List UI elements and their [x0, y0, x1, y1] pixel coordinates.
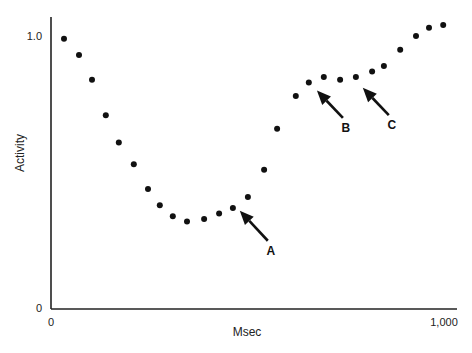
data-point [230, 205, 236, 211]
y-tick-label-top: 1.0 [27, 30, 42, 42]
annotation-arrow-a: A [240, 211, 276, 258]
data-point [170, 213, 176, 219]
data-point [116, 140, 122, 146]
annotation-arrow-c: C [363, 88, 397, 132]
data-point [76, 52, 82, 58]
data-point [337, 77, 343, 83]
activity-scatter-chart: 1.0 0 0 1,000 Msec Activity ABC [0, 0, 472, 353]
x-tick-label-start: 0 [48, 316, 54, 328]
data-point [426, 25, 432, 31]
annotation-arrow-b: B [317, 91, 351, 135]
data-point [369, 69, 375, 75]
data-point [145, 186, 151, 192]
data-point [103, 112, 109, 118]
annotation-label-c: C [387, 118, 396, 132]
data-point [413, 33, 419, 39]
data-point [157, 202, 163, 208]
x-tick-label-end: 1,000 [430, 316, 458, 328]
data-point [397, 47, 403, 53]
y-tick-label-bottom: 0 [36, 302, 42, 314]
data-point [321, 74, 327, 80]
data-point [201, 216, 207, 222]
data-point [381, 63, 387, 69]
data-point [131, 161, 137, 167]
data-point [61, 36, 67, 42]
data-point [293, 93, 299, 99]
annotation-label-a: A [266, 244, 275, 258]
data-point [306, 79, 312, 85]
data-point [440, 22, 446, 28]
data-point [216, 210, 222, 216]
x-axis-title: Msec [233, 325, 262, 339]
data-point [353, 74, 359, 80]
data-point [184, 219, 190, 225]
data-point [261, 167, 267, 173]
y-axis-title: Activity [13, 134, 27, 172]
data-point [245, 194, 251, 200]
data-point [274, 126, 280, 132]
annotation-label-b: B [342, 121, 351, 135]
annotations: ABC [240, 88, 397, 258]
data-point [89, 77, 95, 83]
